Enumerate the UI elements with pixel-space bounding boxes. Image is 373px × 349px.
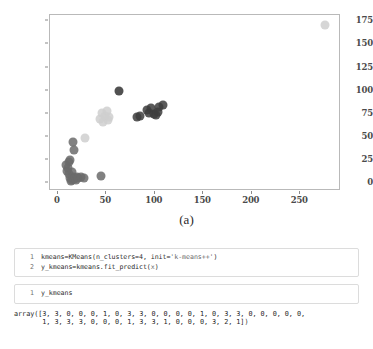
scatter-point bbox=[79, 174, 88, 183]
scatter-point bbox=[70, 145, 79, 154]
y-tick-mark bbox=[45, 158, 48, 159]
code-line: 1kmeans=KMeans(n_clusters=4, init='k-mea… bbox=[15, 253, 358, 263]
scatter-point bbox=[320, 21, 329, 30]
x-tick-label: 50 bbox=[85, 195, 125, 205]
x-tick-label: 100 bbox=[134, 195, 174, 205]
notebook-panel: 1kmeans=KMeans(n_clusters=4, init='k-mea… bbox=[0, 248, 373, 327]
x-tick-mark bbox=[105, 191, 106, 194]
scatter-point bbox=[114, 87, 123, 96]
code-line-text: y_kmeans bbox=[41, 289, 72, 299]
code-cell-kmeans-fit[interactable]: 1kmeans=KMeans(n_clusters=4, init='k-mea… bbox=[14, 248, 359, 277]
x-tick-mark bbox=[251, 191, 252, 194]
code-cell-y-kmeans[interactable]: 1y_kmeans bbox=[14, 284, 359, 304]
scatter-figure-panel: 0255075100125150175 050100150200250 (a) bbox=[0, 0, 373, 232]
code-line-number: 1 bbox=[21, 253, 34, 263]
scatter-point bbox=[97, 172, 106, 181]
scatter-point bbox=[80, 134, 89, 143]
scatter-point bbox=[105, 113, 114, 122]
y-tick-mark bbox=[45, 181, 48, 182]
code-line-text: y_kmeans=kmeans.fit_predict(x) bbox=[41, 263, 159, 273]
y-tick-mark bbox=[45, 66, 48, 67]
x-tick-label: 250 bbox=[279, 195, 319, 205]
plot-frame bbox=[49, 14, 340, 190]
x-tick-label: 150 bbox=[182, 195, 222, 205]
x-tick-label: 0 bbox=[37, 195, 77, 205]
plot-canvas bbox=[50, 15, 339, 189]
code-line: 2y_kmeans=kmeans.fit_predict(x) bbox=[15, 263, 358, 273]
x-tick-mark bbox=[299, 191, 300, 194]
x-tick-mark bbox=[202, 191, 203, 194]
caption-a: (a) bbox=[0, 212, 373, 228]
x-tick-mark bbox=[57, 191, 58, 194]
x-tick-mark bbox=[154, 191, 155, 194]
scatter-point bbox=[66, 155, 75, 164]
code-line-number: 1 bbox=[21, 289, 34, 299]
y-tick-mark bbox=[45, 89, 48, 90]
x-tick-label: 200 bbox=[231, 195, 271, 205]
scatter-point bbox=[158, 101, 167, 110]
code-line-text: kmeans=KMeans(n_clusters=4, init='k-mean… bbox=[41, 253, 217, 263]
y-tick-mark bbox=[45, 135, 48, 136]
y-tick-mark bbox=[45, 43, 48, 44]
code-line: 1y_kmeans bbox=[15, 289, 358, 299]
code-line-number: 2 bbox=[21, 263, 34, 273]
y-tick-mark bbox=[45, 20, 48, 21]
y-tick-mark bbox=[45, 112, 48, 113]
cell-output-array: array([3, 3, 0, 0, 0, 1, 0, 3, 3, 0, 0, … bbox=[14, 310, 359, 327]
